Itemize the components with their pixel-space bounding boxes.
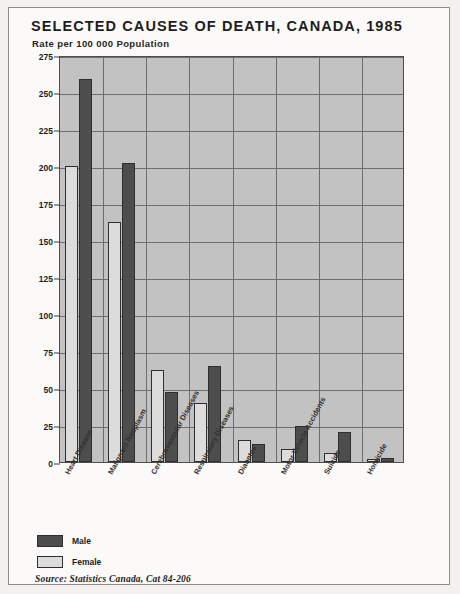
plot-area: 0255075100125150175200225250275 xyxy=(59,56,404,463)
y-tick-mark-125 xyxy=(54,279,60,280)
legend-item-male: Male xyxy=(37,532,101,549)
gridline-250 xyxy=(60,94,403,95)
group-separator xyxy=(146,57,147,462)
chart-legend: Male Female xyxy=(37,532,101,574)
y-tick-mark-225 xyxy=(54,131,60,132)
legend-swatch-male xyxy=(37,535,63,547)
bar-male-0 xyxy=(79,79,92,462)
group-separator xyxy=(103,57,104,462)
legend-label-female: Female xyxy=(72,557,101,567)
y-tick-mark-75 xyxy=(54,353,60,354)
y-tick-mark-200 xyxy=(54,168,60,169)
y-tick-mark-250 xyxy=(54,94,60,95)
y-tick-mark-0 xyxy=(54,464,60,465)
bar-male-7 xyxy=(381,458,394,462)
gridline-175 xyxy=(60,205,403,206)
group-separator xyxy=(276,57,277,462)
chart-subtitle: Rate per 100 000 Population xyxy=(32,38,170,49)
bar-male-1 xyxy=(122,163,135,462)
bar-female-1 xyxy=(108,222,121,462)
gridline-225 xyxy=(60,131,403,132)
gridline-200 xyxy=(60,168,403,169)
y-tick-mark-25 xyxy=(54,427,60,428)
gridline-275 xyxy=(60,57,403,58)
y-tick-mark-175 xyxy=(54,205,60,206)
source-note: Source: Statistics Canada, Cat 84-206 xyxy=(35,574,191,584)
legend-swatch-female xyxy=(37,556,63,568)
y-tick-mark-150 xyxy=(54,242,60,243)
y-tick-mark-100 xyxy=(54,316,60,317)
y-tick-mark-275 xyxy=(54,57,60,58)
group-separator xyxy=(233,57,234,462)
legend-label-male: Male xyxy=(72,536,91,546)
legend-item-female: Female xyxy=(37,553,101,570)
chart-title: SELECTED CAUSES OF DEATH, CANADA, 1985 xyxy=(31,18,403,34)
bar-female-0 xyxy=(65,166,78,462)
group-separator xyxy=(362,57,363,462)
y-tick-mark-50 xyxy=(54,390,60,391)
chart-figure: SELECTED CAUSES OF DEATH, CANADA, 1985 R… xyxy=(8,7,450,585)
